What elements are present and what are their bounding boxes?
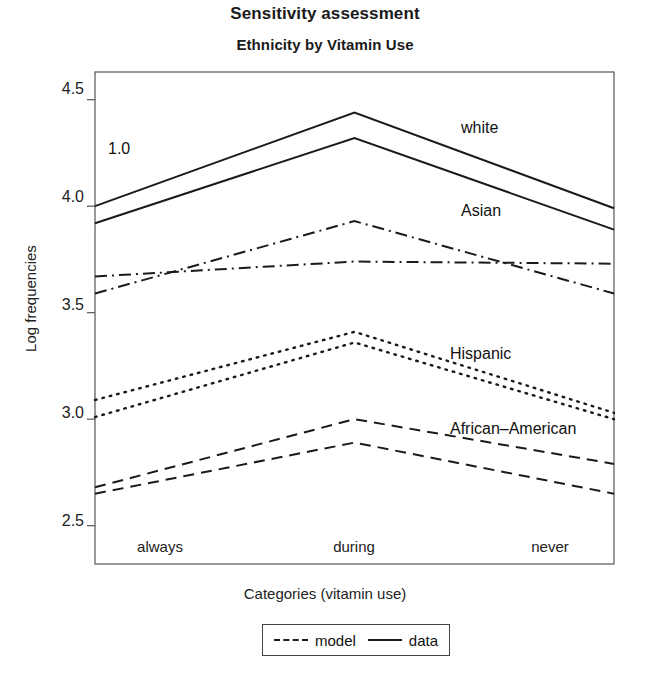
legend-swatch-solid-icon (368, 639, 402, 641)
line-Asian-model (95, 262, 614, 277)
line-Hispanic-data (95, 332, 614, 413)
series-label-hispanic: Hispanic (450, 345, 511, 363)
line-white-model (95, 138, 614, 230)
series-label-asian: Asian (461, 202, 501, 220)
annotation-1-0: 1.0 (108, 140, 130, 158)
xtick-label-never: never (490, 538, 610, 555)
axis-frame (95, 72, 614, 564)
ytick-label-4-5: 4.5 (38, 80, 84, 98)
line-African-American-model (95, 443, 614, 494)
legend: model data (262, 624, 450, 656)
chart-figure: Sensitivity assessment Ethnicity by Vita… (0, 0, 650, 686)
legend-entry-model: model (274, 632, 356, 649)
y-axis-label: Log frequencies (22, 199, 39, 399)
xtick-label-always: always (100, 538, 220, 555)
legend-label-data: data (409, 632, 438, 649)
line-Asian-data (95, 221, 614, 293)
series-label-african-american: African–American (450, 420, 576, 438)
line-white-data (95, 112, 614, 208)
chart-title: Sensitivity assessment (0, 4, 650, 24)
line-Hispanic-model (95, 342, 614, 419)
ytick-label-3-5: 3.5 (38, 296, 84, 314)
x-axis-label: Categories (vitamin use) (0, 585, 650, 602)
y-tick-marks (87, 100, 95, 526)
ytick-label-2-5: 2.5 (38, 512, 84, 530)
series-label-white: white (461, 119, 498, 137)
legend-label-model: model (315, 632, 356, 649)
legend-swatch-dashed-icon (274, 639, 308, 641)
plot-area (0, 0, 650, 686)
ytick-label-3-0: 3.0 (38, 404, 84, 422)
xtick-label-during: during (294, 538, 414, 555)
legend-entry-data: data (368, 632, 438, 649)
chart-subtitle: Ethnicity by Vitamin Use (0, 36, 650, 53)
ytick-label-4-0: 4.0 (38, 188, 84, 206)
